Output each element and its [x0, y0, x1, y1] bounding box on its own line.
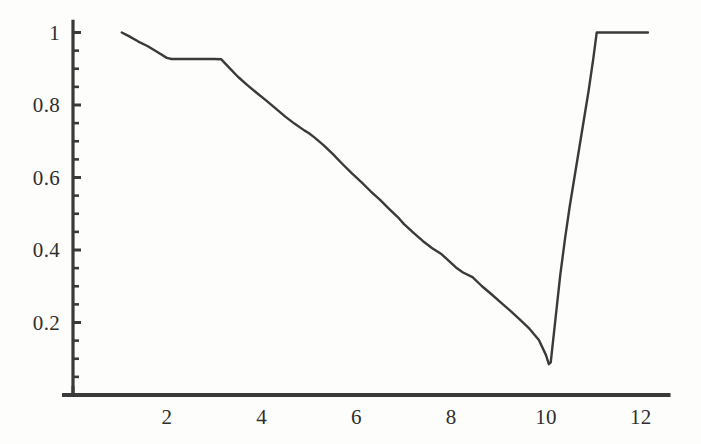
y-tick-label: 0.6	[0, 167, 60, 188]
chart-plot-area	[0, 0, 701, 444]
chart-figure: 0.20.40.60.8124681012	[0, 0, 701, 444]
x-tick-label: 10	[535, 407, 557, 428]
x-tick-label: 2	[161, 407, 172, 428]
y-tick-label: 0.8	[0, 95, 60, 116]
x-tick-label: 12	[630, 407, 652, 428]
x-tick-label: 4	[256, 407, 267, 428]
y-tick-label: 1	[0, 22, 60, 43]
data-series-line	[122, 33, 648, 365]
x-tick-label: 6	[351, 407, 362, 428]
y-tick-label: 0.4	[0, 240, 60, 261]
y-tick-label: 0.2	[0, 312, 60, 333]
x-tick-label: 8	[446, 407, 457, 428]
